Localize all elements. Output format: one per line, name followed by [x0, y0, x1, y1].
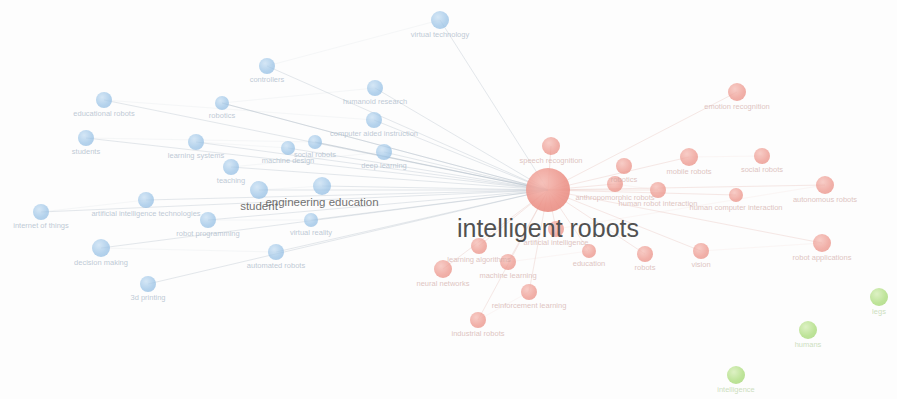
- graph-node-label: educational robots: [73, 110, 134, 118]
- graph-node-label: student: [240, 201, 278, 213]
- graph-node-label: automated robots: [247, 262, 305, 270]
- graph-node-label: human computer interaction: [690, 204, 783, 212]
- graph-node-label: 3d printing: [130, 294, 165, 302]
- graph-node-label: legs: [872, 308, 886, 316]
- graph-node-label: reinforcement learning: [492, 302, 567, 310]
- graph-node-label: learning algorithms: [447, 256, 510, 264]
- graph-node-label: industrial robots: [452, 330, 505, 338]
- graph-node-label: intelligence: [717, 386, 755, 394]
- graph-node-label: robot applications: [793, 254, 852, 262]
- graph-node-label: robotics: [209, 112, 235, 120]
- graph-node-label: mobile robots: [666, 168, 711, 176]
- graph-node-label: learning systems: [168, 152, 224, 160]
- graph-node-label: emotion recognition: [704, 103, 769, 111]
- graph-node-label: speech recognition: [520, 157, 583, 165]
- graph-node-label: robot programming: [176, 230, 239, 238]
- graph-node-label: machine design: [262, 157, 315, 165]
- graph-node-label: artificial intelligence: [523, 239, 588, 247]
- graph-node-label: internet of things: [13, 222, 68, 230]
- graph-node-label: robotics: [611, 176, 637, 184]
- graph-node-label: vision: [691, 261, 710, 269]
- graph-node-label: decision making: [74, 259, 128, 267]
- graph-node-label: teaching: [217, 177, 245, 185]
- graph-node-label: humanoid research: [343, 98, 407, 106]
- graph-node-label: deep learning: [361, 162, 406, 170]
- graph-node-label: engineering education: [265, 197, 378, 209]
- graph-node-label: virtual reality: [290, 229, 332, 237]
- graph-node-label: computer aided instruction: [330, 130, 418, 138]
- graph-node-label: virtual technology: [411, 31, 469, 39]
- graph-node-label: social robots: [741, 166, 783, 174]
- graph-node-label: controllers: [250, 76, 285, 84]
- graph-node-label: neural networks: [417, 280, 470, 288]
- graph-node-label: students: [72, 148, 100, 156]
- label-layer: virtual technologycontrollershumanoid re…: [0, 0, 897, 399]
- network-graph-canvas: virtual technologycontrollershumanoid re…: [0, 0, 897, 399]
- graph-node-label: humans: [795, 341, 822, 349]
- graph-node-label: human robot interaction: [619, 200, 698, 208]
- graph-node-label: autonomous robots: [793, 196, 857, 204]
- graph-node-label: education: [573, 260, 606, 268]
- graph-node-label: robots: [635, 264, 656, 272]
- graph-node-label: artificial intelligence technologies: [91, 210, 200, 218]
- graph-node-label: machine learning: [479, 272, 536, 280]
